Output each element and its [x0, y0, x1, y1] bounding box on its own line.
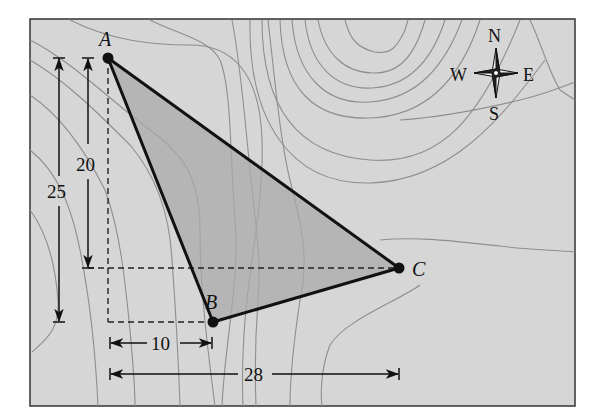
dimension-label-25: 25	[47, 181, 66, 202]
topographic-map-diagram: A B C 25 20 10 28	[0, 0, 591, 420]
dimension-label-28: 28	[244, 364, 263, 385]
dimension-label-20: 20	[76, 154, 95, 175]
compass-north-label: N	[488, 26, 501, 46]
label-c: C	[412, 258, 426, 280]
label-b: B	[205, 291, 217, 313]
compass-south-label: S	[489, 104, 499, 124]
point-a	[103, 53, 114, 64]
label-a: A	[97, 28, 112, 50]
dimension-label-10: 10	[151, 333, 170, 354]
point-b	[208, 317, 219, 328]
compass-east-label: E	[523, 65, 534, 85]
point-c	[394, 263, 405, 274]
compass-west-label: W	[450, 65, 467, 85]
